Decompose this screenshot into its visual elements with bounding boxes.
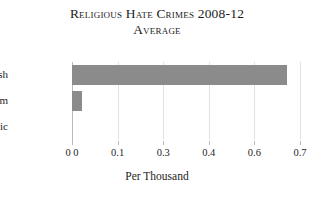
x-tick-label: 0.4: [189, 147, 229, 158]
category-label: Jewish: [0, 68, 8, 80]
bar-row: [72, 88, 300, 114]
x-tick-label: 0.7: [280, 147, 314, 158]
chart-title: Religious Hate Crimes 2008-12 Average: [0, 6, 314, 38]
x-tick-mark: [254, 141, 255, 145]
x-tick-mark: [118, 141, 119, 145]
x-tick-label: 0 0: [52, 147, 92, 158]
x-tick-label: 0.1: [98, 147, 138, 158]
category-label: Muslim: [0, 94, 8, 106]
bar: [72, 91, 82, 111]
x-tick-mark: [209, 141, 210, 145]
bar-chart: Religious Hate Crimes 2008-12 Average Je…: [0, 0, 314, 200]
x-tick-label: 0.6: [234, 147, 274, 158]
x-tick-mark: [72, 141, 73, 145]
chart-title-line-1: Religious Hate Crimes 2008-12: [0, 6, 314, 22]
x-tick-mark: [300, 141, 301, 145]
bar-row: [72, 114, 300, 140]
chart-title-line-2: Average: [0, 22, 314, 38]
bar: [72, 65, 287, 85]
x-tick-mark: [163, 141, 164, 145]
gridline: [300, 62, 301, 140]
x-axis-title: Per Thousand: [0, 170, 314, 182]
bar-row: [72, 62, 300, 88]
category-label: Catholic: [0, 120, 8, 132]
x-tick-label: 0.3: [143, 147, 183, 158]
